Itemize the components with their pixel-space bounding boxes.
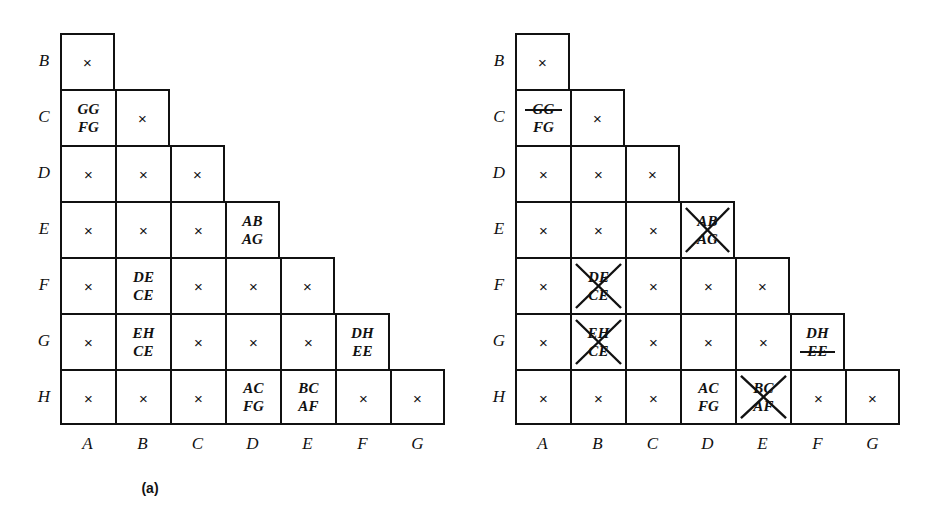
matrix-cell[interactable]: × [625,201,680,257]
matrix-cell[interactable]: × [115,201,170,257]
matrix-cell[interactable]: × [60,257,115,313]
cell-pair-labels: ABAG [227,203,278,257]
matrix-cell[interactable]: × [60,369,115,425]
row-label-g: G [34,313,54,369]
matrix-cell[interactable]: × [515,257,570,313]
matrix-cell[interactable]: BCAF [735,369,790,425]
matrix-cell[interactable]: × [790,369,845,425]
column-labels-a: ABCDEFG [60,434,445,454]
pair-top-label: BC [296,379,320,397]
column-label-f: F [335,434,390,454]
matrix-cell[interactable]: × [515,33,570,89]
matrix-row: G×EHCE×××DHEE [515,313,900,369]
matrix-cell[interactable]: × [570,145,625,201]
matrix-cell[interactable]: × [60,33,115,89]
matrix-cell[interactable]: × [280,257,335,313]
pair-top-label: GG [530,100,556,118]
matrix-cell[interactable]: × [845,369,900,425]
matrix-cell[interactable]: × [390,369,445,425]
x-mark-icon: × [172,259,225,313]
x-mark-icon: × [172,315,225,369]
matrix-cell[interactable]: × [170,257,225,313]
matrix-row: B× [515,33,900,89]
matrix-cell[interactable]: × [735,257,790,313]
matrix-cell[interactable]: ACFG [680,369,735,425]
matrix-cell[interactable]: × [570,201,625,257]
column-labels-b: ABCDEFG [515,434,900,454]
matrix-cell[interactable]: EHCE [115,313,170,369]
x-mark-icon: × [172,371,225,423]
matrix-cell[interactable]: × [515,369,570,425]
matrix-cell[interactable]: × [225,313,280,369]
matrix-cell[interactable]: × [60,145,115,201]
matrix-cell[interactable]: × [170,313,225,369]
matrix-cell[interactable]: × [60,313,115,369]
row-label-b: B [489,33,509,89]
column-label-g: G [845,434,900,454]
matrix-cell[interactable]: ABAG [680,201,735,257]
pair-bottom-label: AF [296,397,320,415]
matrix-cell[interactable]: × [570,89,625,145]
matrix-cell[interactable]: EHCE [570,313,625,369]
matrix-cell[interactable]: DECE [115,257,170,313]
matrix-row: G×EHCE×××DHEE [60,313,445,369]
column-label-a: A [515,434,570,454]
matrix-cell[interactable]: × [170,369,225,425]
matrix-cell[interactable]: ACFG [225,369,280,425]
matrix-cell[interactable]: × [60,201,115,257]
matrix-cell[interactable]: DECE [570,257,625,313]
matrix-cell[interactable]: × [170,145,225,201]
matrix-cell[interactable]: × [115,369,170,425]
cell-pair-labels: DECE [572,259,625,313]
matrix-cell[interactable]: ABAG [225,201,280,257]
cell-pair-labels: ACFG [227,371,280,423]
x-mark-icon: × [517,203,570,257]
pair-top-label: DE [586,268,611,286]
x-mark-icon: × [117,91,168,145]
cell-pair-labels: ACFG [682,371,735,423]
cell-pair-labels: BCAF [737,371,790,423]
x-mark-icon: × [847,371,898,423]
column-label-b: B [570,434,625,454]
matrix-cell[interactable]: × [280,313,335,369]
x-mark-icon: × [627,203,680,257]
pair-top-label: AB [695,212,719,230]
matrix-cell[interactable]: × [115,89,170,145]
cell-pair-labels: GGFG [62,91,115,145]
column-label-c: C [625,434,680,454]
pair-bottom-label: EE [805,342,829,360]
column-label-f: F [790,434,845,454]
matrix-row: B× [60,33,445,89]
x-mark-icon: × [117,147,170,201]
matrix-cell[interactable]: DHEE [790,313,845,369]
matrix-cell[interactable]: × [625,257,680,313]
matrix-row: E×××ABAG [515,201,900,257]
matrix-row: H×××ACFGBCAF×× [515,369,900,425]
matrix-cell[interactable]: × [515,201,570,257]
matrix-cell[interactable]: GGFG [60,89,115,145]
matrix-cell[interactable]: × [335,369,390,425]
matrix-cell[interactable]: × [735,313,790,369]
matrix-cell[interactable]: DHEE [335,313,390,369]
pair-top-label: BC [751,379,775,397]
matrix-cell[interactable]: × [680,313,735,369]
x-mark-icon: × [737,259,788,313]
matrix-cell[interactable]: × [625,313,680,369]
row-label-f: F [489,257,509,313]
matrix-cell[interactable]: × [625,145,680,201]
matrix-cell[interactable]: × [115,145,170,201]
matrix-cell[interactable]: × [170,201,225,257]
x-mark-icon: × [517,35,568,89]
pair-top-label: DH [349,324,376,342]
matrix-cell[interactable]: × [625,369,680,425]
x-mark-icon: × [62,147,115,201]
matrix-cell[interactable]: BCAF [280,369,335,425]
matrix-cell[interactable]: × [515,145,570,201]
matrix-cell[interactable]: × [680,257,735,313]
matrix-cell[interactable]: GGFG [515,89,570,145]
matrix-cell[interactable]: × [570,369,625,425]
pair-top-label: AC [696,379,720,397]
matrix-cell[interactable]: × [225,257,280,313]
x-mark-icon: × [62,35,113,89]
matrix-cell[interactable]: × [515,313,570,369]
